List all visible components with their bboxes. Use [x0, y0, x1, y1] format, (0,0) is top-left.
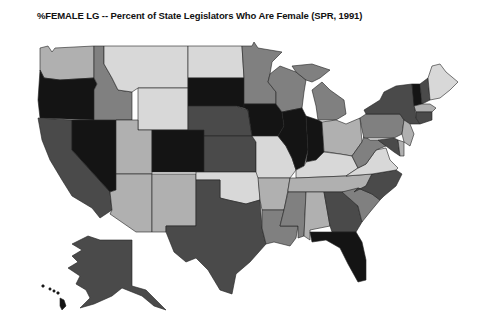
state-CO[interactable] — [152, 130, 204, 172]
state-SD[interactable] — [188, 78, 244, 108]
us-choropleth-map — [0, 0, 484, 327]
state-WY[interactable] — [138, 88, 188, 130]
state-MA[interactable] — [414, 104, 436, 112]
state-AK[interactable] — [68, 236, 166, 310]
state-ND[interactable] — [188, 46, 244, 78]
state-HI[interactable] — [42, 285, 66, 310]
state-KS[interactable] — [204, 136, 256, 172]
state-MT[interactable] — [104, 46, 188, 92]
state-NM[interactable] — [152, 174, 196, 232]
state-PA[interactable] — [360, 114, 404, 138]
state-WA[interactable] — [40, 46, 94, 80]
state-FL[interactable] — [310, 232, 366, 282]
state-ME[interactable] — [428, 64, 458, 100]
state-AZ[interactable] — [110, 174, 152, 232]
